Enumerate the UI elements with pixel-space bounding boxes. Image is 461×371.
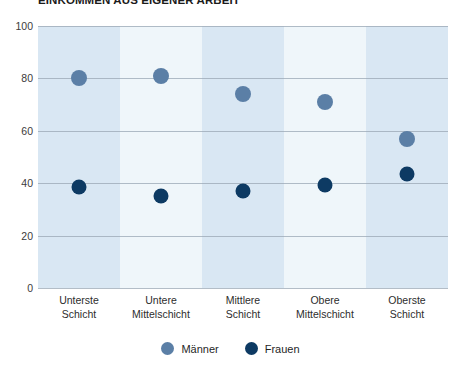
legend-item[interactable]: Männer [161,342,218,355]
x-tick-label-line1: Obere [310,294,339,306]
data-point-maenner [399,131,415,147]
y-tick-label: 100 [3,20,33,32]
data-point-frauen [72,180,87,195]
data-point-frauen [154,189,169,204]
gridline [38,26,448,27]
x-tick-label-line1: Mittlere [226,294,260,306]
data-point-frauen [400,167,415,182]
y-tick-label: 40 [3,177,33,189]
x-tick-label-line1: Unterste [59,294,99,306]
x-tick-label: UntersteSchicht [38,294,120,321]
gridline [38,131,448,132]
chart-container: EINKOMMEN AUS EIGENER ARBEIT 02040608010… [0,0,461,371]
plot-band [120,26,202,288]
plot-band [366,26,448,288]
x-tick-label-line2: Mittelschicht [120,308,202,322]
x-tick-label-line1: Untere [145,294,177,306]
data-point-frauen [236,184,251,199]
gridline [38,236,448,237]
plot-band [38,26,120,288]
chart-legend: MännerFrauen [0,342,461,355]
legend-swatch-icon [161,342,174,355]
y-tick-label: 20 [3,230,33,242]
x-tick-label-line2: Schicht [366,308,448,322]
data-point-maenner [235,86,251,102]
y-tick-label: 0 [3,282,33,294]
x-tick-label: MittlereSchicht [202,294,284,321]
legend-swatch-icon [245,342,258,355]
legend-label: Frauen [265,343,300,355]
x-tick-label: UntereMittelschicht [120,294,202,321]
y-axis: 020406080100 [0,26,33,288]
x-axis: UntersteSchichtUntereMittelschichtMittle… [38,294,448,330]
plot-band [284,26,366,288]
data-point-maenner [153,68,169,84]
plot-band [202,26,284,288]
x-tick-label-line2: Schicht [38,308,120,322]
gridline [38,288,448,289]
data-point-maenner [71,70,87,86]
y-tick-label: 60 [3,125,33,137]
chart-title: EINKOMMEN AUS EIGENER ARBEIT [38,0,240,6]
x-tick-label: ObersteSchicht [366,294,448,321]
legend-label: Männer [181,343,218,355]
gridline [38,78,448,79]
data-point-maenner [317,94,333,110]
legend-item[interactable]: Frauen [245,342,300,355]
y-tick-label: 80 [3,72,33,84]
x-tick-label: ObereMittelschicht [284,294,366,321]
plot-area [38,26,448,288]
x-tick-label-line2: Mittelschicht [284,308,366,322]
x-tick-label-line2: Schicht [202,308,284,322]
data-point-frauen [318,177,333,192]
x-tick-label-line1: Oberste [388,294,425,306]
